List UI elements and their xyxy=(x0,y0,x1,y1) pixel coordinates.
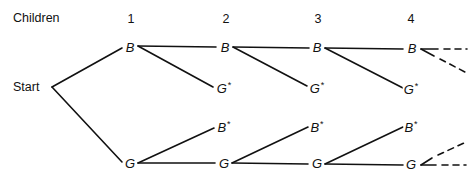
node-girl-gen2: G xyxy=(218,157,230,170)
edge-b3-b4 xyxy=(325,48,403,49)
family-tree-diagram: Children Start 1 2 3 4 B G B G* B* G B G… xyxy=(0,0,476,182)
node-boy-gen1: B xyxy=(125,41,136,54)
edge-g3-g4 xyxy=(325,164,403,165)
node-label: B xyxy=(408,41,417,56)
node-girl-star-gen3: G* xyxy=(309,81,326,95)
edge-b4-cont2-dashed xyxy=(440,59,465,72)
node-girl-gen4: G xyxy=(405,158,417,171)
node-girl-star-gen4: G* xyxy=(403,82,420,96)
edge-b4-cont2-solid xyxy=(421,49,434,56)
edge-b3-gs4 xyxy=(325,48,403,88)
edge-g1-bs2 xyxy=(138,128,214,163)
node-label: G xyxy=(406,157,416,172)
edge-b2-gs3 xyxy=(233,47,307,86)
node-boy-gen2: B xyxy=(220,41,231,54)
star-marker: * xyxy=(414,119,418,129)
column-label-2: 2 xyxy=(223,13,230,26)
node-girl-gen1: G xyxy=(124,157,136,170)
column-label-4: 4 xyxy=(408,13,415,26)
start-label: Start xyxy=(13,81,39,94)
star-marker: * xyxy=(227,119,231,129)
star-marker: * xyxy=(320,119,324,129)
node-boy-star-gen3: B* xyxy=(309,120,324,134)
node-label: B xyxy=(217,120,226,135)
children-label: Children xyxy=(13,12,60,25)
node-label: B xyxy=(221,40,230,55)
edge-start-b1 xyxy=(52,48,122,87)
node-boy-gen4: B xyxy=(407,42,418,55)
node-label: G xyxy=(404,82,414,97)
edge-g2-g3 xyxy=(232,163,308,164)
node-label: B xyxy=(313,40,322,55)
edge-g4-cont-dashed xyxy=(438,143,464,155)
node-girl-star-gen2: G* xyxy=(216,81,233,95)
star-marker: * xyxy=(228,80,232,90)
node-boy-gen3: B xyxy=(312,41,323,54)
column-label-1: 1 xyxy=(128,13,135,26)
edge-b2-b3 xyxy=(233,47,309,48)
column-label-3: 3 xyxy=(315,13,322,26)
node-girl-gen3: G xyxy=(311,157,323,170)
node-label: G xyxy=(219,156,229,171)
edge-g3-bs4 xyxy=(325,127,403,164)
node-boy-star-gen2: B* xyxy=(216,120,231,134)
node-label: B xyxy=(310,120,319,135)
star-marker: * xyxy=(415,81,419,91)
edge-g2-bs3 xyxy=(232,127,308,163)
edge-b1-b2 xyxy=(138,46,216,47)
edge-start-g1 xyxy=(52,87,122,162)
node-label: B xyxy=(404,120,413,135)
node-boy-star-gen4: B* xyxy=(403,120,418,134)
node-label: G xyxy=(217,81,227,96)
edge-g4-cont-solid xyxy=(421,158,432,165)
node-label: G xyxy=(312,156,322,171)
node-label: G xyxy=(125,156,135,171)
node-label: B xyxy=(126,40,135,55)
star-marker: * xyxy=(321,80,325,90)
node-label: G xyxy=(310,81,320,96)
edge-b1-gs2 xyxy=(138,46,213,87)
